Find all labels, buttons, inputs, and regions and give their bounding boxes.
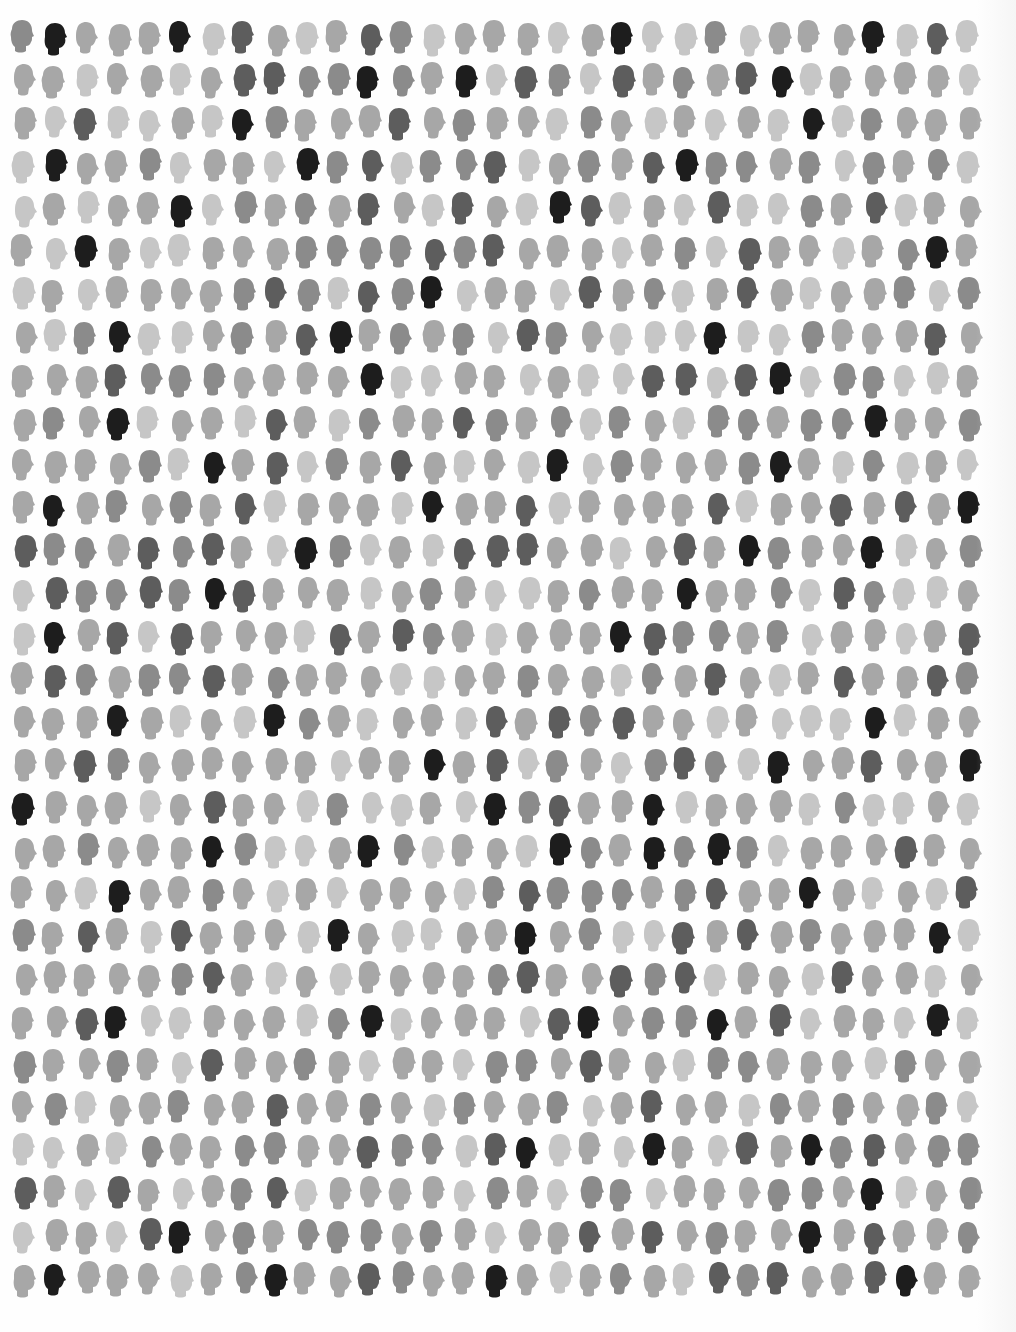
head-silhouette bbox=[578, 452, 605, 485]
head-silhouette bbox=[135, 664, 162, 697]
head-silhouette bbox=[230, 492, 257, 525]
head-silhouette bbox=[228, 663, 255, 696]
head-silhouette bbox=[74, 1261, 101, 1294]
head-silhouette bbox=[607, 664, 634, 697]
head-silhouette bbox=[543, 235, 570, 268]
head-silhouette bbox=[700, 1178, 727, 1211]
head-silhouette bbox=[449, 1179, 476, 1212]
head-silhouette bbox=[72, 366, 99, 399]
head-silhouette bbox=[672, 1219, 699, 1252]
head-silhouette bbox=[481, 705, 508, 738]
head-silhouette bbox=[702, 580, 729, 613]
head-silhouette bbox=[165, 365, 192, 398]
head-silhouette bbox=[859, 1222, 886, 1255]
head-silhouette bbox=[608, 790, 635, 823]
head-silhouette bbox=[763, 620, 790, 653]
head-silhouette bbox=[797, 1051, 824, 1084]
head-silhouette bbox=[794, 1090, 821, 1123]
head-silhouette bbox=[103, 622, 130, 655]
head-silhouette bbox=[952, 876, 979, 909]
head-silhouette bbox=[889, 150, 916, 183]
head-silhouette bbox=[513, 961, 540, 994]
head-silhouette bbox=[483, 535, 510, 568]
head-silhouette bbox=[830, 363, 857, 396]
head-silhouette bbox=[514, 237, 541, 270]
head-silhouette bbox=[198, 961, 225, 994]
head-silhouette bbox=[827, 621, 854, 654]
head-silhouette bbox=[386, 877, 413, 910]
head-silhouette bbox=[921, 751, 948, 784]
head-silhouette bbox=[892, 106, 919, 139]
head-silhouette bbox=[325, 623, 352, 656]
head-silhouette bbox=[135, 236, 162, 269]
head-silhouette bbox=[196, 708, 223, 741]
head-silhouette bbox=[9, 63, 36, 96]
head-silhouette bbox=[357, 577, 384, 610]
head-silhouette bbox=[639, 1133, 666, 1166]
head-silhouette bbox=[481, 63, 508, 96]
head-silhouette bbox=[420, 880, 447, 913]
head-silhouette bbox=[38, 66, 65, 99]
head-silhouette bbox=[73, 278, 100, 311]
head-silhouette bbox=[165, 151, 192, 184]
head-silhouette bbox=[164, 1090, 191, 1123]
head-silhouette bbox=[797, 195, 824, 228]
head-silhouette bbox=[198, 1175, 225, 1208]
head-silhouette bbox=[386, 21, 413, 54]
head-silhouette bbox=[166, 63, 193, 96]
head-silhouette bbox=[483, 749, 510, 782]
head-silhouette bbox=[668, 280, 695, 313]
head-silhouette bbox=[480, 365, 507, 398]
head-silhouette bbox=[515, 791, 542, 824]
head-silhouette bbox=[606, 109, 633, 142]
head-silhouette bbox=[167, 195, 194, 228]
head-silhouette bbox=[702, 1222, 729, 1255]
head-silhouette bbox=[452, 279, 479, 312]
head-silhouette bbox=[168, 535, 195, 568]
head-silhouette bbox=[483, 321, 510, 354]
head-silhouette bbox=[263, 452, 290, 485]
head-silhouette bbox=[671, 451, 698, 484]
head-silhouette bbox=[640, 623, 667, 656]
head-silhouette bbox=[546, 833, 573, 866]
head-silhouette bbox=[578, 1094, 605, 1127]
head-silhouette bbox=[860, 920, 887, 953]
head-silhouette bbox=[702, 1008, 729, 1041]
head-silhouette bbox=[11, 535, 38, 568]
head-silhouette bbox=[764, 1179, 791, 1212]
head-silhouette bbox=[607, 236, 634, 269]
head-silhouette bbox=[197, 407, 224, 440]
head-silhouette bbox=[357, 1219, 384, 1252]
head-silhouette bbox=[40, 1175, 67, 1208]
head-silhouette bbox=[608, 148, 635, 181]
head-silhouette bbox=[261, 622, 288, 655]
head-silhouette bbox=[830, 791, 857, 824]
head-silhouette bbox=[827, 1263, 854, 1296]
head-silhouette bbox=[766, 362, 793, 395]
head-silhouette bbox=[355, 961, 382, 994]
head-silhouette bbox=[102, 1132, 129, 1165]
head-silhouette bbox=[420, 24, 447, 57]
head-silhouette bbox=[102, 276, 129, 309]
head-silhouette bbox=[668, 494, 695, 527]
head-silhouette bbox=[480, 1221, 507, 1254]
head-silhouette bbox=[261, 194, 288, 227]
head-silhouette bbox=[451, 1004, 478, 1037]
head-silhouette bbox=[199, 23, 226, 56]
paper-edge-shadow bbox=[976, 0, 1016, 1332]
head-silhouette bbox=[39, 193, 66, 226]
head-silhouette bbox=[72, 1222, 99, 1255]
head-silhouette bbox=[798, 321, 825, 354]
head-silhouette bbox=[511, 708, 538, 741]
head-silhouette bbox=[829, 665, 856, 698]
head-silhouette bbox=[703, 920, 730, 953]
head-silhouette bbox=[74, 833, 101, 866]
head-silhouette bbox=[826, 922, 853, 955]
head-silhouette bbox=[671, 237, 698, 270]
head-silhouette bbox=[544, 152, 571, 185]
head-silhouette bbox=[325, 837, 352, 870]
head-silhouette bbox=[607, 450, 634, 483]
head-silhouette bbox=[701, 663, 728, 696]
head-silhouette bbox=[542, 322, 569, 355]
head-silhouette bbox=[416, 150, 443, 183]
